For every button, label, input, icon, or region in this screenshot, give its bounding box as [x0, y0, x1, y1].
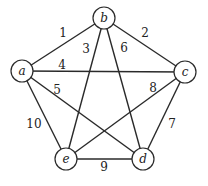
edge-weight-label: 6: [120, 41, 128, 55]
edges-group: [22, 18, 185, 159]
node-e: e: [55, 148, 77, 170]
edge-weight-label: 4: [58, 58, 66, 72]
node-d: d: [132, 148, 154, 170]
node-label: c: [182, 65, 189, 79]
edge-weight-label: 1: [59, 26, 67, 40]
node-label: e: [62, 152, 69, 166]
node-c: c: [174, 61, 196, 83]
edge-b-d: [104, 18, 143, 159]
graph-diagram: 12345678910 abcde: [0, 0, 208, 186]
edge-weight-label: 7: [168, 117, 176, 131]
node-a: a: [11, 60, 33, 82]
edge-a-c: [22, 71, 185, 72]
node-b: b: [93, 7, 115, 29]
edge-weight-label: 3: [82, 42, 90, 56]
edge-weight-label: 8: [149, 81, 157, 95]
edge-weight-label: 10: [26, 117, 41, 131]
node-label: a: [18, 64, 25, 78]
node-label: d: [139, 152, 147, 166]
nodes-group: abcde: [11, 7, 196, 170]
edge-a-d: [22, 71, 143, 159]
edge-weight-label: 5: [53, 83, 61, 97]
node-label: b: [100, 11, 108, 25]
edge-weight-label: 9: [100, 160, 108, 174]
edge-labels-group: 12345678910: [26, 26, 175, 174]
edge-weight-label: 2: [141, 26, 149, 40]
